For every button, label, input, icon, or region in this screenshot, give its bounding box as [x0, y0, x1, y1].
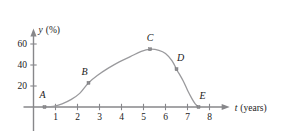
y-axis-arrow-icon: [30, 29, 36, 37]
point-label-a: A: [38, 89, 46, 100]
data-point-marker: [149, 48, 152, 51]
y-tick-label: 60: [18, 39, 28, 49]
x-axis-unit: (years): [240, 103, 266, 114]
y-tick-label: 40: [18, 60, 28, 70]
point-labels-group: ABCDE: [38, 32, 205, 101]
x-tick-label: 5: [141, 112, 146, 122]
x-tick-label: 8: [207, 112, 212, 122]
x-tick-label: 4: [119, 112, 124, 122]
point-label-d: D: [176, 52, 185, 63]
y-axis-title: y(%): [38, 25, 60, 36]
x-tick-label: 3: [97, 112, 102, 122]
data-point-marker: [197, 106, 200, 109]
x-tick-label: 6: [163, 112, 168, 122]
curve-chart: 12345678204060 ABCDE t(years)y(%): [0, 0, 283, 137]
x-tick-label: 1: [53, 112, 58, 122]
curve-group: [45, 49, 199, 107]
y-axis-unit: (%): [46, 25, 60, 36]
data-curve: [45, 49, 199, 107]
x-axis-arrow-icon: [222, 104, 230, 110]
x-tick-label: 7: [185, 112, 190, 122]
point-label-b: B: [81, 66, 87, 77]
x-axis-variable: t: [235, 103, 238, 113]
x-axis-title: t(years): [235, 103, 267, 114]
x-tick-label: 2: [75, 112, 80, 122]
y-axis-variable: y: [38, 25, 44, 35]
data-point-marker: [43, 106, 46, 109]
point-label-e: E: [198, 90, 205, 101]
y-tick-label: 20: [18, 81, 28, 91]
data-point-marker: [87, 81, 90, 84]
figure-container: 12345678204060 ABCDE t(years)y(%): [0, 0, 283, 137]
data-point-marker: [175, 68, 178, 71]
point-label-c: C: [147, 32, 154, 43]
